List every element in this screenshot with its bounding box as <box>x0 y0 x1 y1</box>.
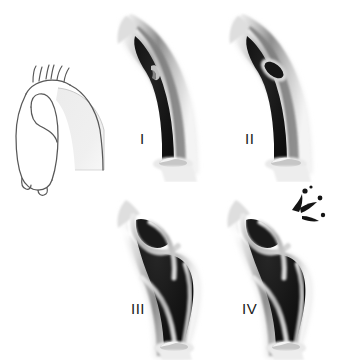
rupture-extravasation <box>292 185 325 221</box>
distal-shaft <box>272 166 311 182</box>
panel-label-i: I <box>140 131 145 146</box>
panel-stage-iii <box>102 182 220 360</box>
aortic-pathology-figure: I II III IV <box>0 0 339 361</box>
panel-label-ii: II <box>245 131 254 146</box>
panel-stage-iv <box>212 182 336 360</box>
distal-shaft <box>158 350 192 360</box>
highlighted-segment <box>56 88 104 170</box>
panel-label-iii: III <box>131 301 145 316</box>
panel-label-iv: IV <box>242 301 257 316</box>
panel-stage-ii <box>212 4 336 182</box>
distal-shaft <box>160 166 197 182</box>
distal-shaft <box>270 350 304 360</box>
great-vessels <box>33 65 69 82</box>
panel-stage-i <box>102 4 220 182</box>
